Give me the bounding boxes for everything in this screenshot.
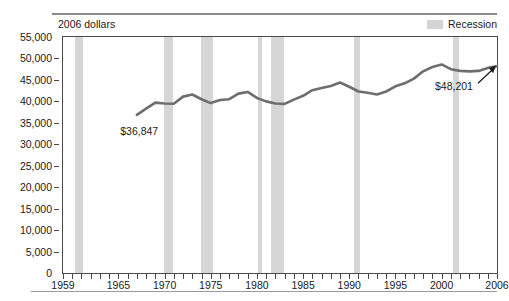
x-axis-tick-mark: [479, 274, 480, 279]
x-axis-tick-mark: [331, 274, 332, 279]
x-axis-tick-mark: [414, 274, 415, 279]
x-axis-tick-mark: [183, 274, 184, 279]
x-axis-tick-mark: [238, 274, 239, 279]
annotation-start-value: $36,847: [120, 125, 158, 137]
x-axis-tick-mark: [229, 274, 230, 279]
x-axis-tick-label: 1975: [199, 279, 222, 291]
x-axis-tick-label: 2006: [485, 279, 508, 291]
x-axis-tick-label: 1970: [153, 279, 176, 291]
x-axis-tick-mark: [275, 274, 276, 279]
x-axis-tick-mark: [322, 274, 323, 279]
x-axis-tick-mark: [137, 274, 138, 279]
x-axis-tick-mark: [100, 274, 101, 279]
x-axis-tick-label: 1990: [338, 279, 361, 291]
x-axis-tick-label: 1959: [51, 279, 74, 291]
x-axis-tick-mark: [91, 274, 92, 279]
x-axis-tick-mark: [81, 274, 82, 279]
x-axis-tick-label: 2000: [430, 279, 453, 291]
x-axis-tick-mark: [423, 274, 424, 279]
x-axis-tick-mark: [469, 274, 470, 279]
x-axis-tick-mark: [460, 274, 461, 279]
annotation-end-value: $48,201: [435, 80, 473, 92]
x-axis-tick-label: 1985: [291, 279, 314, 291]
x-axis-tick-label: 1995: [384, 279, 407, 291]
x-axis: 1959196519701975198019851990199520002006: [0, 0, 509, 301]
x-axis-tick-mark: [146, 274, 147, 279]
x-axis-tick-mark: [285, 274, 286, 279]
x-axis-tick-mark: [368, 274, 369, 279]
x-axis-tick-mark: [192, 274, 193, 279]
x-axis-tick-mark: [377, 274, 378, 279]
x-axis-tick-label: 1965: [107, 279, 130, 291]
chart-figure: 2006 dollars Recession 55,00050,00045,00…: [0, 0, 509, 301]
x-axis-tick-label: 1980: [245, 279, 268, 291]
